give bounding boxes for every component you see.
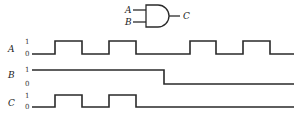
signal-b-low-tick: 0 <box>25 80 29 88</box>
signal-b-label: B <box>7 70 15 80</box>
signal-a-high-tick: 1 <box>25 38 29 46</box>
and-gate-body-icon <box>146 5 169 27</box>
gate-output-c-label: C <box>183 11 190 21</box>
signal-c-waveform <box>32 95 294 107</box>
signal-b-high-tick: 1 <box>25 66 29 74</box>
gate-input-b-label: B <box>124 17 132 27</box>
signal-a-low-tick: 0 <box>25 50 29 58</box>
timing-diagram: A B C A 1 0 B 1 0 C 1 0 <box>0 0 302 117</box>
signal-a-label: A <box>7 44 15 54</box>
signal-a-waveform <box>32 41 294 54</box>
signal-b-waveform <box>32 70 294 84</box>
signal-c-high-tick: 1 <box>25 92 29 100</box>
signal-a-row: A 1 0 <box>7 38 294 58</box>
signal-c-label: C <box>8 98 15 108</box>
gate-input-a-label: A <box>124 5 132 15</box>
signal-b-row: B 1 0 <box>7 66 294 88</box>
signal-c-row: C 1 0 <box>8 92 294 111</box>
and-gate-symbol: A B C <box>124 5 190 27</box>
signal-c-low-tick: 0 <box>25 103 29 111</box>
